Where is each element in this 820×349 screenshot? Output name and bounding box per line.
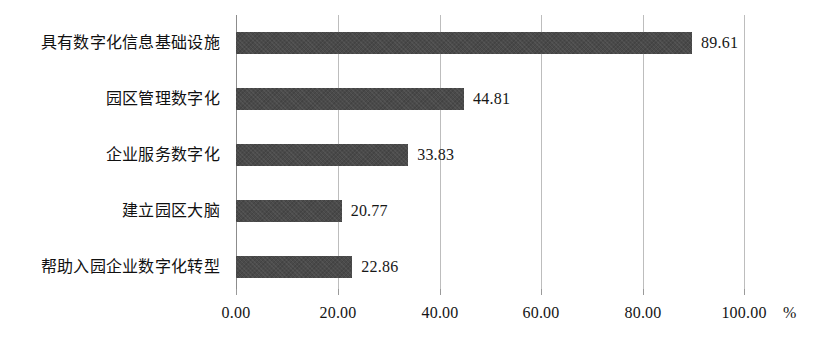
bar-row: 20.77 [236,183,745,239]
category-label: 企业服务数字化 [8,127,228,183]
x-tick-label: 20.00 [320,305,357,321]
bar-value-label: 22.86 [361,259,398,275]
bar-value-label: 44.81 [473,91,510,107]
bar-row: 33.83 [236,127,745,183]
bar [236,200,342,222]
x-axis: 0.00 20.00 40.00 60.00 80.00 100.00 [236,295,745,296]
x-tick-label: 80.00 [625,305,662,321]
bar-row: 44.81 [236,71,745,127]
bar [236,88,464,110]
category-label: 具有数字化信息基础设施 [8,15,228,71]
x-tick-label: 40.00 [422,305,459,321]
category-axis-labels: 具有数字化信息基础设施 园区管理数字化 企业服务数字化 建立园区大脑 帮助入园企… [8,15,228,295]
x-tick-label: 0.00 [222,305,251,321]
x-tick-mark [643,289,644,295]
x-tick-mark [236,289,237,295]
category-label: 帮助入园企业数字化转型 [8,239,228,295]
x-axis-unit-label: % [783,305,796,321]
bar-row: 22.86 [236,239,745,295]
x-tick-mark [440,289,441,295]
x-tick-mark [541,289,542,295]
bar-chart: 具有数字化信息基础设施 园区管理数字化 企业服务数字化 建立园区大脑 帮助入园企… [0,0,820,349]
bar-row: 89.61 [236,15,745,71]
category-label: 园区管理数字化 [8,71,228,127]
x-tick-mark [338,289,339,295]
bar [236,144,408,166]
x-tick-label: 60.00 [523,305,560,321]
bar-value-label: 89.61 [701,35,738,51]
bar [236,32,692,54]
category-label: 建立园区大脑 [8,183,228,239]
plot-area: 89.61 44.81 33.83 20.77 22.86 [236,15,745,295]
bar-value-label: 33.83 [417,147,454,163]
x-tick-label: 100.00 [721,305,766,321]
bar [236,256,352,278]
bar-value-label: 20.77 [351,203,388,219]
x-tick-mark [744,289,745,295]
